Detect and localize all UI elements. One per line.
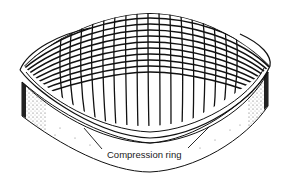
compression-ring-label: Compression ring [107,149,181,160]
